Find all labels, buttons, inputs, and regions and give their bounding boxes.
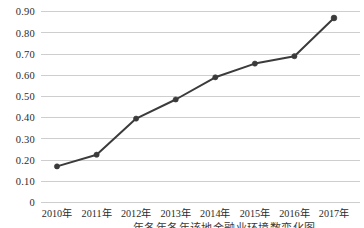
xtick-label-2013: 2013年 bbox=[161, 207, 191, 219]
series-group bbox=[54, 15, 337, 169]
ytick-label-0.90: 0.90 bbox=[16, 6, 35, 17]
xtick-label-2015: 2015年 bbox=[240, 207, 270, 219]
data-point-2017 bbox=[331, 15, 337, 21]
ytick-label-0.50: 0.50 bbox=[16, 91, 35, 102]
x-axis-tick-labels: 2010年 2011年 2012年 2013年 2014年 2015年 2016… bbox=[42, 207, 349, 219]
ytick-label-0: 0 bbox=[30, 197, 35, 208]
data-point-2010 bbox=[54, 164, 59, 169]
ytick-label-0.60: 0.60 bbox=[16, 70, 35, 81]
figure-caption-strip: 年各年各年该地金融业环境数变化图 bbox=[0, 219, 364, 228]
series-line-path bbox=[57, 18, 334, 166]
ytick-label-0.40: 0.40 bbox=[16, 112, 35, 123]
line-chart-figure: 0.90 0.80 0.70 0.60 0.50 0.40 0.30 0.20 … bbox=[0, 0, 364, 228]
xtick-label-2017: 2017年 bbox=[319, 207, 349, 219]
ytick-label-0.10: 0.10 bbox=[16, 176, 35, 187]
figure-caption: 年各年各年该地金融业环境数变化图 bbox=[133, 219, 315, 228]
ytick-label-0.20: 0.20 bbox=[16, 155, 35, 166]
ytick-label-0.30: 0.30 bbox=[16, 134, 35, 145]
data-point-2014 bbox=[213, 75, 218, 80]
xtick-label-2014: 2014年 bbox=[200, 207, 230, 219]
data-point-2016 bbox=[292, 54, 297, 59]
xtick-label-2010: 2010年 bbox=[42, 207, 72, 219]
y-axis-tick-labels: 0.90 0.80 0.70 0.60 0.50 0.40 0.30 0.20 … bbox=[16, 6, 35, 208]
data-point-2012 bbox=[134, 116, 139, 121]
data-point-2013 bbox=[173, 97, 178, 102]
xtick-label-2016: 2016年 bbox=[279, 207, 309, 219]
xtick-label-2012: 2012年 bbox=[121, 207, 151, 219]
ytick-label-0.80: 0.80 bbox=[16, 28, 35, 39]
chart-plot-area: 0.90 0.80 0.70 0.60 0.50 0.40 0.30 0.20 … bbox=[0, 0, 364, 228]
ytick-label-0.70: 0.70 bbox=[16, 49, 35, 60]
data-point-2015 bbox=[252, 61, 257, 66]
data-point-2011 bbox=[94, 152, 99, 157]
xtick-label-2011: 2011年 bbox=[82, 207, 112, 219]
